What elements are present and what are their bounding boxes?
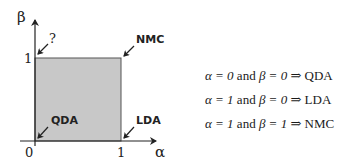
equation-lda: α = 1 and β = 0 ⇒ LDA [205, 92, 331, 108]
x-tick-1: 1 [117, 145, 125, 160]
y-tick-1: 1 [24, 51, 32, 66]
eq-beta: β = 1 [259, 116, 287, 131]
eq-and: and [237, 68, 256, 83]
eq-result: NMC [305, 116, 335, 131]
implies-icon: ⇒ [290, 92, 301, 107]
eq-beta: β = 0 [259, 92, 287, 107]
eq-alpha: α = 1 [205, 116, 234, 131]
eq-and: and [237, 92, 256, 107]
y-axis-label: β [17, 8, 26, 26]
label-nmc: NMC [136, 33, 164, 46]
arrow-top-right [124, 46, 134, 56]
x-axis-label: α [155, 143, 165, 161]
label-qda: QDA [51, 114, 78, 127]
eq-result: QDA [305, 68, 333, 83]
eq-alpha: α = 0 [205, 68, 234, 83]
label-lda: LDA [136, 114, 161, 127]
eq-beta: β = 0 [259, 68, 287, 83]
x-tick-0: 0 [25, 145, 33, 160]
equation-nmc: α = 1 and β = 1 ⇒ NMC [205, 116, 334, 132]
equation-qda: α = 0 and β = 0 ⇒ QDA [205, 68, 333, 84]
parameter-region [35, 58, 121, 141]
eq-alpha: α = 1 [205, 92, 234, 107]
arrow-bottom-right [124, 127, 134, 138]
label-unknown: ? [49, 31, 56, 46]
eq-result: LDA [305, 92, 332, 107]
eq-and: and [237, 116, 256, 131]
arrow-top-left [38, 44, 48, 54]
implies-icon: ⇒ [290, 68, 301, 83]
implies-icon: ⇒ [290, 116, 301, 131]
